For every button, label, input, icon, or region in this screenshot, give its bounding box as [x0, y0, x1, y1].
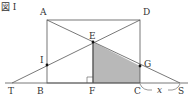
label-x: x [157, 85, 162, 95]
label-s: S [178, 86, 184, 96]
shaded-region-efcg [93, 42, 140, 83]
point-e [92, 41, 95, 44]
right-angle-mark [87, 77, 93, 83]
figure-title: 図 I [1, 2, 17, 12]
geometry-figure: 図 I A D E G I T B F C x S [0, 0, 193, 101]
label-g: G [144, 59, 151, 69]
label-t: T [8, 86, 14, 96]
label-e: E [89, 31, 96, 41]
label-i: I [40, 55, 44, 65]
label-d: D [143, 7, 150, 17]
label-b: B [37, 86, 44, 96]
label-f: F [89, 86, 95, 96]
point-g [139, 65, 142, 68]
label-c: C [134, 86, 141, 96]
point-i [46, 64, 49, 67]
label-a: A [39, 7, 47, 17]
